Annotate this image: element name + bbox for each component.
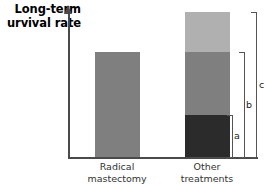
bracket-b <box>238 52 245 158</box>
x-tick-label-line2: mastectomy <box>87 173 146 184</box>
bracket-a-spine <box>232 115 233 158</box>
bracket-c <box>250 12 257 158</box>
x-tick-label-other-treatments: Othertreatments <box>152 161 262 185</box>
bar-segment-medium <box>95 52 140 157</box>
bar-radical-mastectomy <box>95 52 140 157</box>
bracket-a <box>226 115 233 158</box>
x-tick-label-line1: Radical <box>100 161 135 172</box>
bracket-a-bottom-tick <box>227 157 233 158</box>
bar-segment-medium <box>185 52 230 115</box>
y-axis-line <box>68 12 70 159</box>
y-axis-label-line2: urvival rate <box>7 16 81 30</box>
bar-segment-light <box>185 12 230 52</box>
x-tick-label-line2: treatments <box>181 173 234 184</box>
bracket-b-bottom-tick <box>239 157 245 158</box>
bracket-c-spine <box>256 12 257 158</box>
chart-canvas: Long-termurvival rate Radicalmastectomy … <box>0 0 266 188</box>
bracket-b-spine <box>244 52 245 158</box>
bracket-c-label: c <box>259 80 264 90</box>
bracket-c-bottom-tick <box>251 157 257 158</box>
bar-segment-dark <box>185 115 230 157</box>
bar-other-treatments <box>185 12 230 157</box>
x-tick-label-line1: Other <box>194 161 221 172</box>
